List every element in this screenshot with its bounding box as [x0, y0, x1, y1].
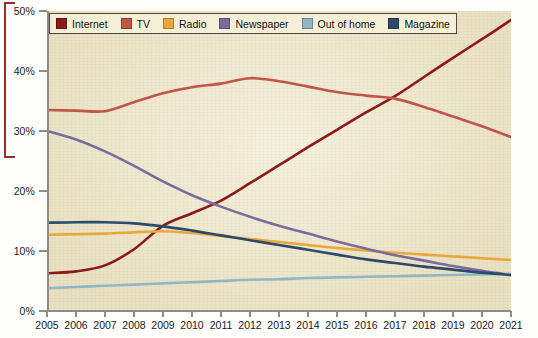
- legend-item-label: TV: [137, 18, 150, 30]
- y-axis-tick-label: 30%: [14, 125, 35, 137]
- x-axis-tick: [220, 311, 222, 317]
- series-line-internet: [47, 20, 511, 273]
- x-axis-tick-label: 2011: [210, 319, 233, 331]
- x-axis-tick-label: 2005: [35, 319, 58, 331]
- x-axis-tick: [394, 311, 396, 317]
- legend-item-radio[interactable]: Radio: [163, 18, 206, 30]
- legend-item-out-of-home[interactable]: Out of home: [302, 18, 376, 30]
- x-axis-tick-label: 2015: [325, 319, 348, 331]
- x-axis-tick: [249, 311, 251, 317]
- legend-item-label: Radio: [179, 18, 206, 30]
- x-axis-tick-label: 2006: [64, 319, 87, 331]
- x-axis-tick: [423, 311, 425, 317]
- series-line-tv: [47, 78, 511, 137]
- x-axis-tick-label: 2020: [470, 319, 493, 331]
- x-axis-tick-label: 2014: [296, 319, 319, 331]
- x-axis-tick: [278, 311, 280, 317]
- x-axis-tick: [365, 311, 367, 317]
- x-axis-tick-label: 2009: [151, 319, 174, 331]
- x-axis-tick-label: 2012: [238, 319, 261, 331]
- x-axis-tick: [307, 311, 309, 317]
- chart-legend: InternetTVRadioNewspaperOut of homeMagaz…: [49, 13, 457, 34]
- legend-item-label: Internet: [72, 18, 108, 30]
- legend-swatch-icon: [121, 18, 132, 29]
- x-axis-tick-label: 2010: [180, 319, 203, 331]
- x-axis-tick-label: 2021: [499, 319, 522, 331]
- y-axis-tick: [39, 130, 47, 132]
- y-axis-tick-label: 20%: [14, 185, 35, 197]
- x-axis-tick: [510, 311, 512, 317]
- y-axis-tick-label: 40%: [14, 65, 35, 77]
- series-line-newspaper: [47, 131, 511, 275]
- x-axis-tick-label: 2019: [441, 319, 464, 331]
- legend-swatch-icon: [388, 18, 399, 29]
- y-axis-tick: [39, 70, 47, 72]
- legend-item-tv[interactable]: TV: [121, 18, 150, 30]
- x-axis-tick: [133, 311, 135, 317]
- x-axis-tick-label: 2017: [383, 319, 406, 331]
- chart-container: 0%10%20%30%40%50% 2005200620072008200920…: [0, 0, 538, 338]
- x-axis-tick-label: 2018: [412, 319, 435, 331]
- legend-swatch-icon: [163, 18, 174, 29]
- y-axis-tick: [39, 10, 47, 12]
- series-lines: [47, 11, 511, 311]
- legend-item-label: Magazine: [404, 18, 450, 30]
- legend-item-label: Newspaper: [235, 18, 288, 30]
- y-axis-tick: [39, 250, 47, 252]
- x-axis-tick: [336, 311, 338, 317]
- y-axis-line: [47, 11, 49, 311]
- legend-item-newspaper[interactable]: Newspaper: [219, 18, 288, 30]
- x-axis-tick: [75, 311, 77, 317]
- y-axis-tick: [39, 190, 47, 192]
- legend-item-label: Out of home: [318, 18, 376, 30]
- x-axis-tick: [162, 311, 164, 317]
- legend-swatch-icon: [302, 18, 313, 29]
- legend-item-internet[interactable]: Internet: [56, 18, 108, 30]
- x-axis-tick-label: 2016: [354, 319, 377, 331]
- series-line-out-of-home: [47, 274, 511, 288]
- y-axis-tick-label: 50%: [14, 5, 35, 17]
- x-axis-tick: [452, 311, 454, 317]
- legend-item-magazine[interactable]: Magazine: [388, 18, 450, 30]
- legend-swatch-icon: [56, 18, 67, 29]
- x-axis-tick: [481, 311, 483, 317]
- y-axis-tick-label: 0%: [20, 305, 35, 317]
- x-axis-tick-label: 2013: [267, 319, 290, 331]
- y-axis: 0%10%20%30%40%50%: [0, 0, 47, 338]
- x-axis-tick-label: 2008: [122, 319, 145, 331]
- legend-swatch-icon: [219, 18, 230, 29]
- x-axis-tick: [46, 311, 48, 317]
- series-line-magazine: [47, 222, 511, 275]
- x-axis-tick-label: 2007: [93, 319, 116, 331]
- y-axis-tick-label: 10%: [14, 245, 35, 257]
- x-axis-tick: [191, 311, 193, 317]
- x-axis-tick: [104, 311, 106, 317]
